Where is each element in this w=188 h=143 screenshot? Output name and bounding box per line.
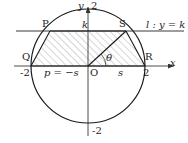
point-s-label: S: [119, 19, 126, 29]
k-height-label: k: [82, 20, 88, 30]
x-axis-label: x: [170, 58, 176, 68]
left-param-label: p = −s: [44, 68, 79, 78]
y-tick-2-label: 2: [91, 1, 97, 11]
right-param-label: s: [118, 68, 123, 78]
y-axis-label: y: [78, 1, 84, 11]
y-tick-minus2-label: -2: [92, 126, 102, 136]
point-p-label: P: [42, 19, 49, 29]
point-r-label: R: [145, 52, 153, 62]
origin-label: O: [90, 68, 98, 78]
point-q-label: Q: [22, 52, 30, 62]
x-tick-minus2-label: -2: [20, 68, 30, 78]
x-tick-2-label: 2: [143, 68, 149, 78]
angle-theta-label: θ: [106, 53, 112, 63]
geometry-figure: y 2 k l : y = k P S Q R -2 p = −s O s 2 …: [0, 0, 188, 143]
line-l-equation-label: l : y = k: [146, 20, 185, 30]
